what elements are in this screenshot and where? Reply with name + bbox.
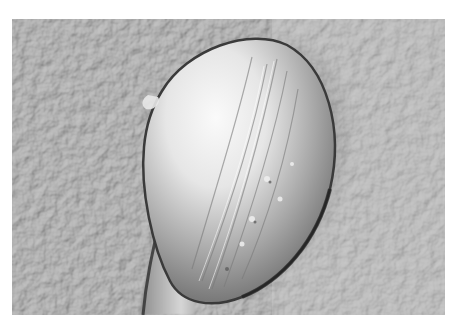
micrograph-image bbox=[12, 19, 445, 315]
micrograph-render bbox=[12, 19, 445, 315]
